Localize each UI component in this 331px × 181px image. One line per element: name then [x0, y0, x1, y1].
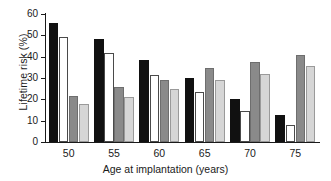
y-tick-label: 40: [0, 52, 38, 62]
y-tick-label: 20: [0, 94, 38, 104]
x-tick-label: 75: [275, 147, 315, 159]
bar: [170, 89, 180, 142]
x-tick-label: 60: [139, 147, 179, 159]
bar: [260, 74, 270, 142]
bar-group: [227, 14, 272, 142]
bar: [124, 97, 134, 142]
bar: [94, 39, 104, 142]
bar: [215, 80, 225, 142]
bar: [296, 55, 306, 142]
y-tick-mark: [41, 78, 45, 79]
y-tick-label: 0: [0, 137, 38, 147]
bar: [306, 66, 316, 142]
bar: [79, 104, 89, 142]
plot-area: [46, 14, 318, 142]
bar: [49, 23, 59, 142]
y-tick-mark: [41, 14, 45, 15]
bar-chart-figure: Lifetime risk (%) 0102030405060 50556065…: [0, 0, 331, 181]
bar: [195, 92, 205, 142]
bar: [286, 125, 296, 142]
y-tick-label: 30: [0, 73, 38, 83]
bar: [160, 80, 170, 142]
bar: [240, 111, 250, 142]
bar: [250, 62, 260, 142]
y-tick-mark: [41, 142, 45, 143]
bar: [275, 115, 285, 142]
bar: [114, 87, 124, 142]
bar: [139, 60, 149, 142]
bar: [59, 37, 69, 142]
x-axis-title: Age at implantation (years): [0, 163, 331, 175]
y-tick-label: 50: [0, 30, 38, 40]
y-tick-label: 10: [0, 116, 38, 126]
y-tick-label: 60: [0, 9, 38, 19]
x-tick-label: 65: [185, 147, 225, 159]
y-tick-mark: [41, 57, 45, 58]
x-tick-label: 55: [94, 147, 134, 159]
x-tick-label: 70: [230, 147, 270, 159]
bar-group: [182, 14, 227, 142]
bar-group: [273, 14, 318, 142]
bar: [104, 53, 114, 142]
bar-group: [91, 14, 136, 142]
bar: [185, 78, 195, 142]
bar-group: [137, 14, 182, 142]
x-axis-line: [45, 142, 320, 143]
bar: [150, 75, 160, 142]
y-tick-mark: [41, 121, 45, 122]
y-tick-mark: [41, 35, 45, 36]
bar: [205, 68, 215, 142]
bar: [69, 96, 79, 142]
y-tick-mark: [41, 99, 45, 100]
bar: [230, 99, 240, 142]
x-tick-label: 50: [49, 147, 89, 159]
bar-group: [46, 14, 91, 142]
